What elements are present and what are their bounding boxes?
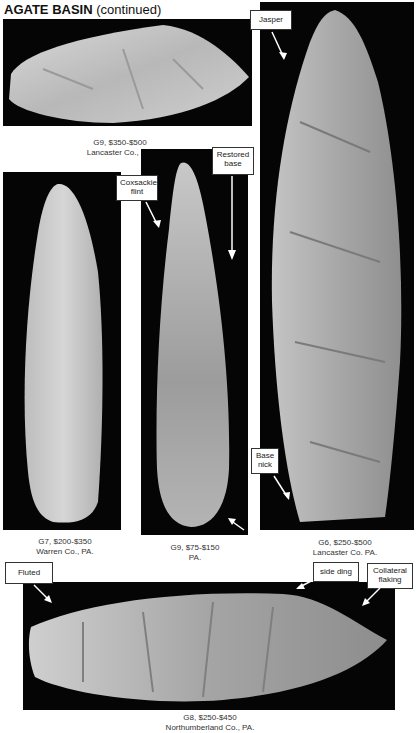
artifact-photo-left-mid bbox=[3, 172, 121, 530]
annotation-text: side ding bbox=[320, 567, 352, 576]
location: Northumberland Co., PA. bbox=[130, 723, 290, 733]
artifact-photo-bottom bbox=[23, 582, 395, 710]
annotation-text: flaking bbox=[371, 575, 409, 584]
annotation-text: flint bbox=[120, 187, 154, 196]
projectile-point-image bbox=[3, 172, 121, 530]
artifact-photo-top-left bbox=[3, 19, 252, 126]
annotation-label-base-nick: Base nick bbox=[251, 448, 279, 474]
annotation-label-fluted: Fluted bbox=[5, 562, 53, 584]
projectile-point-image bbox=[260, 2, 414, 530]
arrow-icon bbox=[0, 0, 1, 1]
annotation-text: Restored bbox=[216, 150, 250, 159]
annotation-label-collateral-flaking: Collateral flaking bbox=[367, 563, 413, 589]
page-title-main: AGATE BASIN bbox=[4, 2, 93, 17]
artifact-caption-left-mid: G7, $200-$350 Warren Co., PA. bbox=[10, 537, 120, 557]
annotation-label-jasper: Jasper bbox=[250, 10, 292, 30]
projectile-point-image bbox=[3, 19, 252, 126]
grade-price: G8, $250-$450 bbox=[130, 713, 290, 723]
artifact-photo-right-tall bbox=[260, 2, 414, 530]
annotation-text: Collateral bbox=[371, 566, 409, 575]
annotation-text: Coxsackie bbox=[120, 178, 154, 187]
page-title: AGATE BASIN (continued) bbox=[4, 2, 161, 17]
annotation-text: Fluted bbox=[18, 568, 40, 577]
annotation-label-side-ding: side ding bbox=[313, 562, 359, 582]
annotation-text: base bbox=[216, 159, 250, 168]
annotation-text: Jasper bbox=[259, 15, 283, 24]
annotation-label-restored-base: Restored base bbox=[212, 147, 254, 175]
grade-price: G9, $75-$150 bbox=[150, 543, 240, 553]
annotation-text: Base bbox=[255, 451, 275, 460]
location: Lancaster Co. PA. bbox=[290, 548, 400, 558]
projectile-point-image bbox=[23, 582, 395, 710]
artifact-caption-bottom: G8, $250-$450 Northumberland Co., PA. bbox=[130, 713, 290, 733]
annotation-text: nick bbox=[255, 460, 275, 469]
location: PA. bbox=[150, 553, 240, 563]
location: Warren Co., PA. bbox=[10, 547, 120, 557]
artifact-caption-right-tall: G6, $250-$500 Lancaster Co. PA. bbox=[290, 538, 400, 558]
grade-price: G6, $250-$500 bbox=[290, 538, 400, 548]
annotation-label-coxsackie-flint: Coxsackie flint bbox=[116, 175, 158, 201]
artifact-caption-center-mid: G9, $75-$150 PA. bbox=[150, 543, 240, 563]
grade-price: G9, $350-$500 bbox=[30, 138, 210, 148]
page-title-suffix: (continued) bbox=[96, 2, 161, 17]
grade-price: G7, $200-$350 bbox=[10, 537, 120, 547]
